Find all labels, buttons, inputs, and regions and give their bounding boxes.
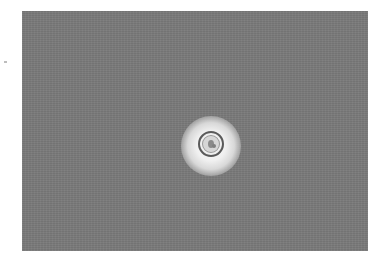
cell xyxy=(198,131,224,157)
cell-granule xyxy=(212,144,216,148)
micrograph-panel xyxy=(22,11,368,251)
edge-mark xyxy=(4,61,7,63)
